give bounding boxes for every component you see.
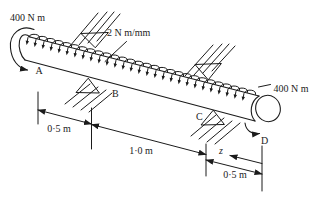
label-moment-right: 400 N m (274, 83, 309, 94)
label-point-a: A (36, 65, 44, 76)
label-distributed-load: 2 N m/mm (107, 27, 151, 38)
label-dim-cd: 0·5 m (223, 169, 247, 180)
label-dim-ab: 0·5 m (47, 123, 71, 134)
figure-canvas: 400 N m 2 N m/mm 400 N m A B C D 0·5 m 1… (0, 0, 323, 201)
label-point-c: C (196, 111, 203, 122)
moment-arrow-d (245, 123, 260, 134)
label-point-d: D (261, 135, 268, 146)
support-lower-b (65, 79, 112, 113)
moment-right-leader-line (259, 85, 271, 88)
dimension-lines (38, 110, 262, 174)
figure-container: 400 N m 2 N m/mm 400 N m A B C D 0·5 m 1… (0, 0, 323, 201)
dim-line-z (230, 156, 262, 164)
shaft-top-edge (30, 37, 259, 96)
load-leader-line (105, 42, 127, 62)
shaft-bottom-edge (25, 60, 255, 121)
label-var-z: z (218, 145, 223, 156)
shaft (19, 35, 283, 125)
label-point-b: B (112, 88, 119, 99)
moment-arrow-a (10, 28, 34, 70)
shaft-left-cap (19, 35, 30, 60)
support-upper-c (185, 44, 235, 80)
label-moment-left: 400 N m (10, 12, 45, 23)
label-dim-bc: 1·0 m (129, 145, 153, 156)
